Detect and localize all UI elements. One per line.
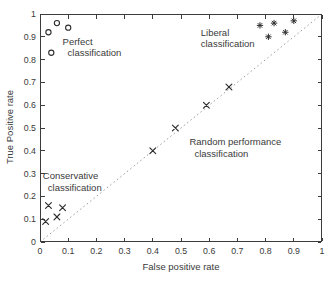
x-marker [46,203,52,209]
star-marker [257,23,263,29]
star-marker [283,29,289,35]
x-marker [203,102,209,108]
y-tick-label: 0.2 [24,191,36,201]
star-marker [271,20,277,26]
y-tick-label: 1 [31,9,36,19]
roc-space-figure: True Positive rate 000.10.10.20.20.30.30… [0,0,335,284]
circle-marker [49,50,54,55]
circle-marker [54,21,59,26]
star-marker [266,34,272,40]
x-marker [54,214,60,220]
random-label: Random performanceclassification [189,136,281,159]
x-tick-label: 0.7 [231,246,243,256]
y-tick-label: 0.7 [24,77,36,87]
star-marker [291,18,297,24]
perfect-label: Perfectclassification [63,36,122,59]
x-tick-label: 0.3 [118,246,130,256]
y-axis-label: True Positive rate [4,90,15,164]
y-tick-label: 0.3 [24,169,36,179]
x-tick-label: 0.5 [175,246,187,256]
y-tick-label: 0.8 [24,55,36,65]
x-tick-label: 0.4 [147,246,159,256]
x-tick-label: 0.8 [259,246,271,256]
plot-area: 000.10.10.20.20.30.30.40.40.50.50.60.60.… [0,0,335,284]
x-tick-label: 0.1 [62,246,74,256]
y-tick-label: 0.9 [24,32,36,42]
x-marker [60,205,66,211]
x-axis-label: False positive rate [142,261,219,272]
x-marker [150,148,156,154]
x-marker [172,125,178,131]
y-tick-label: 0.5 [24,123,36,133]
conservative-label: Conservativeclassification [43,170,102,193]
x-tick-label: 0.2 [90,246,102,256]
x-tick-label: 0 [38,246,43,256]
y-tick-label: 0.4 [24,146,36,156]
y-tick-label: 0.1 [24,214,36,224]
x-tick-label: 0.6 [203,246,215,256]
circle-marker [46,30,51,35]
x-tick-label: 0.9 [288,246,300,256]
x-tick-label: 1 [320,246,325,256]
liberal-label: Liberalclassification [201,27,255,50]
y-tick-label: 0 [31,237,36,247]
y-tick-label: 0.6 [24,100,36,110]
circle-marker [66,25,71,30]
x-marker [43,219,49,225]
